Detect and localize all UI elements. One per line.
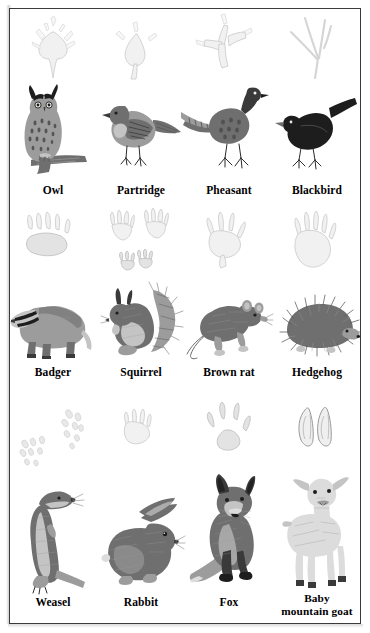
partridge-track (97, 16, 185, 84)
blackbird-track (273, 12, 361, 84)
cell-blackbird[interactable]: Blackbird (273, 12, 361, 208)
animal-tracks-plate: Owl (0, 0, 370, 633)
pheasant-track (185, 12, 273, 84)
cell-hedgehog[interactable]: Hedgehog (273, 208, 361, 396)
cell-label-squirrel: Squirrel (97, 366, 185, 379)
cell-label-line-1: Baby (273, 592, 361, 605)
brown-rat-track (185, 210, 273, 286)
cell-label-rabbit: Rabbit (97, 596, 185, 609)
cell-owl[interactable]: Owl (9, 12, 97, 208)
row-small-mammals: Badger (9, 208, 361, 396)
badger-track (9, 212, 97, 284)
cell-weasel[interactable]: Weasel (9, 396, 97, 624)
cell-brown-rat[interactable]: Brown rat (185, 208, 273, 396)
blackbird-illustration (273, 86, 361, 178)
weasel-illustration (9, 478, 97, 598)
owl-track (9, 16, 97, 84)
brown-rat-illustration (185, 282, 273, 364)
squirrel-illustration (97, 280, 185, 364)
fox-illustration (185, 470, 273, 598)
hedgehog-track (273, 208, 361, 286)
weasel-track (9, 396, 97, 482)
squirrel-track (97, 210, 185, 286)
rabbit-track (97, 404, 185, 474)
cell-label-weasel: Weasel (9, 596, 97, 609)
page-edge-shadow-bottom (8, 624, 363, 628)
rabbit-illustration (97, 490, 185, 598)
row-larger-mammals: Weasel (9, 396, 361, 624)
cell-label-brown-rat: Brown rat (185, 366, 273, 379)
cell-label-partridge: Partridge (97, 184, 185, 197)
badger-illustration (9, 286, 97, 364)
cell-label-badger: Badger (9, 366, 97, 379)
baby-mountain-goat-illustration (273, 474, 361, 594)
baby-mountain-goat-track (273, 402, 361, 466)
cell-pheasant[interactable]: Pheasant (185, 12, 273, 208)
cell-rabbit[interactable]: Rabbit (97, 396, 185, 624)
owl-illustration (9, 78, 97, 178)
cell-label-baby-mountain-goat: Baby mountain goat (273, 592, 361, 618)
cell-badger[interactable]: Badger (9, 208, 97, 396)
cell-label-pheasant: Pheasant (185, 184, 273, 197)
pheasant-illustration (185, 80, 273, 178)
cell-fox[interactable]: Fox (185, 396, 273, 624)
cell-squirrel[interactable]: Squirrel (97, 208, 185, 396)
cell-label-fox: Fox (185, 596, 273, 609)
cell-partridge[interactable]: Partridge (97, 12, 185, 208)
plate-grid: Owl (9, 8, 361, 624)
cell-label-line-2: mountain goat (273, 605, 361, 618)
cell-label-hedgehog: Hedgehog (273, 366, 361, 379)
cell-label-blackbird: Blackbird (273, 184, 361, 197)
fox-track (185, 400, 273, 472)
cell-baby-mountain-goat[interactable]: Baby mountain goat (273, 396, 361, 624)
hedgehog-illustration (273, 290, 361, 364)
cell-label-owl: Owl (9, 184, 97, 197)
partridge-illustration (97, 82, 185, 178)
row-birds: Owl (9, 12, 361, 208)
